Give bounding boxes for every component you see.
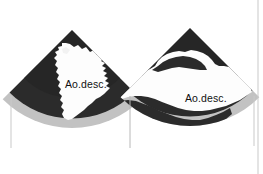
left-sector-scan <box>3 30 142 128</box>
ultrasound-canvas <box>0 0 263 174</box>
ultrasound-figure: Ao.desc. Ao.desc. <box>0 0 263 174</box>
right-sector-scan <box>113 28 259 132</box>
